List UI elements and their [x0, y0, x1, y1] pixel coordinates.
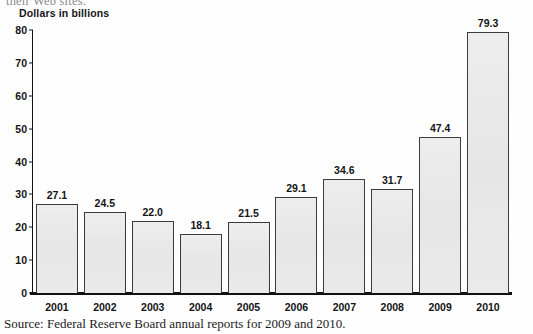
x-axis-tick-label: 2010	[476, 301, 499, 313]
bar-value-label: 29.1	[286, 182, 306, 194]
x-axis-tick-label: 2002	[93, 301, 116, 313]
y-axis-unit-label: Dollars in billions	[19, 7, 109, 19]
y-axis-tick-mark	[29, 293, 33, 294]
bar-group: 79.32010	[464, 30, 512, 293]
y-axis-tick-label: 20	[15, 221, 27, 233]
bar-group: 22.02003	[129, 30, 177, 293]
bar-value-label: 24.5	[95, 197, 115, 209]
plot-area: 27.1200124.5200222.0200318.1200421.52005…	[32, 30, 512, 293]
chart-page: their Web sites. Dollars in billions 27.…	[0, 0, 533, 334]
y-axis-tick-mark	[29, 194, 33, 195]
bar	[84, 212, 126, 293]
bar	[419, 137, 461, 293]
y-axis-tick-mark	[29, 161, 33, 162]
y-axis-tick-label: 60	[15, 90, 27, 102]
bar-group: 34.62007	[320, 30, 368, 293]
bar	[323, 179, 365, 293]
y-axis-tick-label: 70	[15, 57, 27, 69]
y-axis-tick-mark	[29, 95, 33, 96]
bar-value-label: 22.0	[143, 206, 163, 218]
bar	[228, 222, 270, 293]
y-axis-tick-mark	[29, 260, 33, 261]
bar-group: 21.52005	[225, 30, 273, 293]
bar	[371, 189, 413, 293]
y-axis-tick-mark	[29, 30, 33, 31]
y-axis-tick-mark	[29, 62, 33, 63]
bar-value-label: 47.4	[430, 122, 450, 134]
source-note: Source: Federal Reserve Board annual rep…	[4, 316, 346, 332]
y-axis-tick-mark	[29, 128, 33, 129]
bar-group: 27.12001	[33, 30, 81, 293]
y-axis-tick-label: 80	[15, 24, 27, 36]
bar-group: 24.52002	[81, 30, 129, 293]
bar	[275, 197, 317, 293]
x-axis-tick-label: 2007	[333, 301, 356, 313]
bar-value-label: 34.6	[334, 164, 354, 176]
bar-series: 27.1200124.5200222.0200318.1200421.52005…	[33, 30, 512, 293]
y-axis-tick-label: 30	[15, 188, 27, 200]
y-axis-tick-label: 0	[21, 287, 27, 299]
bar	[36, 204, 78, 293]
y-axis-tick-label: 40	[15, 156, 27, 168]
x-axis-tick-label: 2008	[381, 301, 404, 313]
bar-group: 18.12004	[177, 30, 225, 293]
x-axis-tick-label: 2005	[237, 301, 260, 313]
bar-value-label: 21.5	[238, 207, 258, 219]
bar-group: 47.42009	[416, 30, 464, 293]
x-axis-tick-label: 2006	[285, 301, 308, 313]
bar	[467, 32, 509, 293]
bar	[132, 221, 174, 293]
bar-value-label: 79.3	[478, 17, 498, 29]
bar-group: 31.72008	[368, 30, 416, 293]
bar-value-label: 27.1	[47, 189, 67, 201]
bar-value-label: 31.7	[382, 174, 402, 186]
x-axis-tick-label: 2004	[189, 301, 212, 313]
x-axis-tick-label: 2001	[45, 301, 68, 313]
bar-group: 29.12006	[273, 30, 321, 293]
x-axis-tick-label: 2003	[141, 301, 164, 313]
bar	[180, 234, 222, 294]
y-axis-tick-label: 10	[15, 254, 27, 266]
x-axis-tick-label: 2009	[428, 301, 451, 313]
y-axis-tick-mark	[29, 227, 33, 228]
bar-value-label: 18.1	[190, 219, 210, 231]
y-axis-tick-label: 50	[15, 123, 27, 135]
